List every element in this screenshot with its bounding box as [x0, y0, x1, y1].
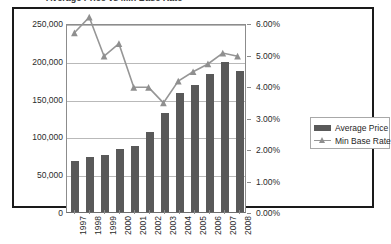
page-title: Average Price vs Min Base Rate	[46, 0, 182, 3]
x-axis-tick-label: 2002	[153, 216, 163, 235]
x-axis-tick-label: 2000	[123, 216, 133, 235]
chart-legend: Average Price Min Base Rate	[310, 117, 390, 149]
x-axis-tick-label: 2001	[138, 216, 148, 235]
bar-swatch-icon	[314, 125, 331, 131]
line-triangle-icon	[314, 137, 331, 145]
left-axis-tick-label: 50,000	[37, 170, 63, 180]
left-axis-tick-label: 250,000	[32, 19, 63, 29]
right-axis-tick	[247, 150, 251, 151]
plot-area	[66, 24, 246, 213]
x-axis-tick-label: 2003	[168, 216, 178, 235]
x-axis-tick	[209, 210, 210, 214]
left-axis-tick-label: 100,000	[32, 132, 63, 142]
right-axis-tick-label: 5.00%	[256, 51, 280, 61]
right-axis-tick	[247, 87, 251, 88]
x-axis-tick-label: 2005	[198, 216, 208, 235]
right-axis-tick	[247, 119, 251, 120]
chart-frame: 050,000100,000150,000200,000250,000 0.00…	[12, 7, 374, 208]
x-axis-tick	[164, 210, 165, 214]
x-axis-tick	[239, 210, 240, 214]
x-axis-tick-label: 1998	[93, 216, 103, 235]
x-axis-tick	[104, 210, 105, 214]
x-axis-tick	[194, 210, 195, 214]
x-axis-tick-label: 2004	[183, 216, 193, 235]
x-axis-tick-label: 2006	[213, 216, 223, 235]
x-axis-tick	[89, 210, 90, 214]
right-axis-tick-label: 4.00%	[256, 82, 280, 92]
left-axis-tick-label: 0	[58, 208, 63, 218]
line-marker-triangle	[116, 40, 123, 47]
x-axis-tick-label: 2007	[228, 216, 238, 235]
right-axis-tick-label: 2.00%	[256, 145, 280, 155]
x-axis-labels: 1997199819992000200120022003200420052006…	[66, 214, 246, 244]
legend-item-min-base-rate: Min Base Rate	[314, 134, 387, 147]
left-axis-labels: 050,000100,000150,000200,000250,000	[14, 24, 63, 213]
x-axis-tick	[119, 210, 120, 214]
x-axis-tick	[179, 210, 180, 214]
x-axis-tick	[134, 210, 135, 214]
line-marker-triangle	[190, 68, 197, 75]
right-axis-tick-label: 6.00%	[256, 19, 280, 29]
right-axis-tick-label: 3.00%	[256, 114, 280, 124]
x-axis-tick-label: 2008	[243, 216, 253, 235]
left-axis-tick-label: 200,000	[32, 57, 63, 67]
x-axis-tick	[149, 210, 150, 214]
x-axis-tick	[224, 210, 225, 214]
x-axis-tick-label: 1999	[108, 216, 118, 235]
right-axis-tick-label: 0.00%	[256, 208, 280, 218]
chart-title-cropped: Average Price vs Min Base Rate	[0, 0, 387, 7]
line-path	[74, 17, 237, 103]
legend-item-average-price: Average Price	[314, 121, 387, 134]
x-axis-tick-label: 1997	[78, 216, 88, 235]
right-axis-tick	[247, 24, 251, 25]
legend-label: Average Price	[335, 123, 388, 133]
right-axis-tick	[247, 213, 251, 214]
line-marker-triangle	[86, 14, 93, 21]
right-axis-labels: 0.00%1.00%2.00%3.00%4.00%5.00%6.00%	[247, 24, 307, 213]
x-axis-tick	[74, 210, 75, 214]
left-axis-tick-label: 150,000	[32, 95, 63, 105]
right-axis-tick	[247, 56, 251, 57]
line-series-min-base-rate	[67, 25, 245, 212]
right-axis-tick-label: 1.00%	[256, 177, 280, 187]
right-axis-tick	[247, 182, 251, 183]
legend-label: Min Base Rate	[335, 136, 391, 146]
